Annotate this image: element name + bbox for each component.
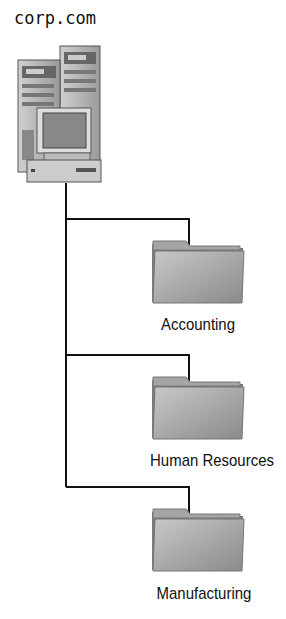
folder-label-human-resources: Human Resources (124, 451, 286, 471)
server-icon (18, 46, 101, 182)
folder-icon-accounting[interactable] (152, 241, 244, 303)
folder-icon-manufacturing[interactable] (152, 509, 244, 571)
tree-diagram (0, 0, 286, 619)
folder-label-accounting: Accounting (110, 315, 286, 335)
folder-icon-human-resources[interactable] (152, 377, 244, 439)
folder-label-manufacturing: Manufacturing (116, 584, 286, 604)
